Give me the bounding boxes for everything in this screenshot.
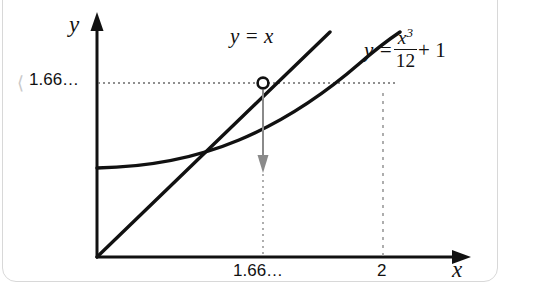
fraction-denominator: 12 (394, 50, 417, 71)
numerator-exponent: 3 (406, 25, 413, 40)
identity-line (97, 32, 330, 257)
cubic-equation-lhs: y = (364, 38, 393, 62)
cubic-curve (97, 32, 400, 168)
cubic-equation-addend: + 1 (418, 38, 446, 62)
intersection-point-marker (258, 78, 269, 89)
x-axis-label: x (452, 258, 462, 281)
cubic-equation-fraction: x312 (394, 26, 417, 71)
x-tick-label-1: 1.66… (233, 262, 283, 279)
y-axis-label: y (69, 13, 79, 36)
x-tick-label-2: 2 (377, 262, 386, 279)
y-tick-label-1: 1.66… (29, 71, 79, 88)
figure-container: ⟨ y x y = x (0, 0, 544, 292)
identity-line-equation-label: y = x (230, 26, 273, 47)
x-axis (96, 250, 471, 264)
fraction-numerator: x3 (394, 26, 417, 50)
cubic-curve-equation-label: y =x312+ 1 (364, 26, 446, 71)
y-axis (91, 12, 104, 258)
